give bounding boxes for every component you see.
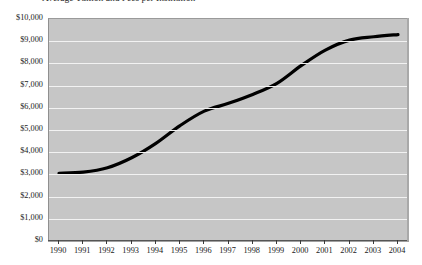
x-axis-tick-label: 1990 xyxy=(50,246,67,256)
x-axis-tick xyxy=(131,240,132,244)
x-axis-tick xyxy=(155,240,156,244)
y-axis-tick-label: $8,000 xyxy=(20,58,43,66)
y-axis-tick-label: $7,000 xyxy=(20,81,43,89)
y-axis-tick-label: $5,000 xyxy=(20,125,43,133)
x-axis-tick-label: 1997 xyxy=(219,246,236,256)
y-axis-tick-label: $4,000 xyxy=(20,147,43,155)
x-axis-tick xyxy=(82,240,83,244)
x-axis-tick xyxy=(228,240,229,244)
gridline xyxy=(49,86,407,87)
x-axis-tick-label: 1993 xyxy=(122,246,139,256)
x-axis-tick xyxy=(373,240,374,244)
y-axis: $0$1,000$2,000$3,000$4,000$5,000$6,000$7… xyxy=(0,0,46,248)
x-axis-tick-label: 1991 xyxy=(74,246,91,256)
gridline xyxy=(49,130,407,131)
gridline xyxy=(49,63,407,64)
gridline xyxy=(49,219,407,220)
x-axis-tick xyxy=(203,240,204,244)
x-axis-tick-label: 2001 xyxy=(316,246,333,256)
x-axis-tick-label: 1992 xyxy=(98,246,115,256)
y-axis-tick-label: $10,000 xyxy=(16,14,43,22)
chart-container: Average Tuition and Fees per Institution… xyxy=(0,0,422,265)
x-axis-tick xyxy=(58,240,59,244)
y-axis-tick-label: $3,000 xyxy=(20,169,43,177)
x-axis-tick xyxy=(349,240,350,244)
x-axis-tick xyxy=(106,240,107,244)
x-axis-tick xyxy=(397,240,398,244)
gridline xyxy=(49,197,407,198)
plot-area xyxy=(48,18,407,240)
plot-right-edge xyxy=(407,18,409,242)
x-axis-tick-label: 1999 xyxy=(268,246,285,256)
x-axis-tick-label: 1996 xyxy=(195,246,212,256)
x-axis-tick xyxy=(179,240,180,244)
y-axis-tick-label: $1,000 xyxy=(20,214,43,222)
gridline xyxy=(49,108,407,109)
gridline xyxy=(49,174,407,175)
x-axis-tick-label: 1998 xyxy=(243,246,260,256)
y-axis-tick-label: $9,000 xyxy=(20,36,43,44)
x-axis-tick-label: 2000 xyxy=(292,246,309,256)
x-axis-tick xyxy=(276,240,277,244)
x-axis-tick xyxy=(252,240,253,244)
gridline xyxy=(49,41,407,42)
x-axis: 1990199119921993199419951996199719981999… xyxy=(0,240,422,265)
x-axis-tick-label: 2003 xyxy=(364,246,381,256)
x-axis-tick-label: 1995 xyxy=(171,246,188,256)
x-axis-tick-label: 2002 xyxy=(340,246,357,256)
y-axis-tick-label: $2,000 xyxy=(20,192,43,200)
chart-title-text: Average Tuition and Fees per Institution xyxy=(42,0,195,3)
x-axis-tick xyxy=(300,240,301,244)
chart-title-clipped: Average Tuition and Fees per Institution xyxy=(0,0,422,7)
x-axis-tick xyxy=(324,240,325,244)
y-axis-tick-label: $6,000 xyxy=(20,103,43,111)
x-axis-tick-label: 2004 xyxy=(389,246,406,256)
gridline xyxy=(49,152,407,153)
x-axis-tick-label: 1994 xyxy=(147,246,164,256)
